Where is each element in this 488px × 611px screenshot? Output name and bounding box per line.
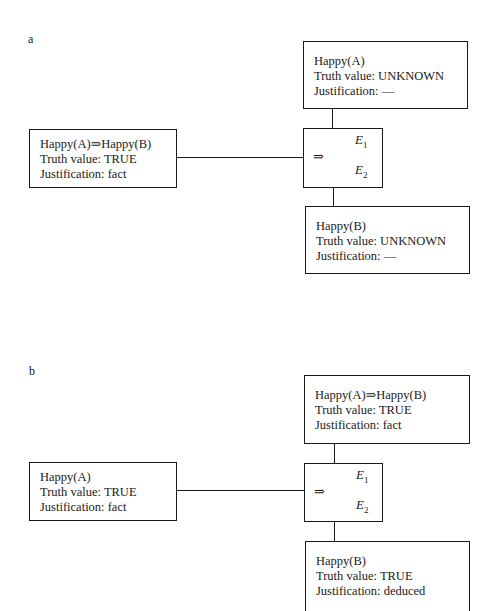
proposition: Happy(B)	[316, 554, 366, 570]
proposition: Happy(B)	[316, 219, 366, 235]
connector-top-to-node	[332, 108, 333, 128]
connector-node-to-bottom	[334, 521, 335, 542]
implication-node: E1 ⇒ E2	[304, 463, 383, 522]
proposition: Happy(A)	[40, 470, 91, 486]
panel-label-a: a	[28, 32, 33, 47]
justification: Justification: fact	[40, 500, 126, 516]
bottom-box-happy-b: Happy(B) Truth value: UNKNOWN Justificat…	[305, 206, 470, 274]
implies-arrow-icon: ⇒	[313, 149, 324, 165]
e2-label: E2	[355, 162, 367, 180]
truth-value: Truth value: UNKNOWN	[316, 234, 446, 250]
justification: Justification: —	[314, 84, 394, 100]
implies-arrow-icon: ⇒	[314, 484, 325, 500]
justification: Justification: fact	[40, 167, 126, 183]
bottom-box-happy-b: Happy(B) Truth value: TRUE Justification…	[305, 541, 470, 611]
proposition: Happy(A)⇒Happy(B)	[40, 137, 151, 153]
proposition: Happy(A)	[314, 54, 365, 70]
truth-value: Truth value: TRUE	[40, 152, 137, 168]
justification: Justification: deduced	[316, 584, 425, 600]
left-box-implication: Happy(A)⇒Happy(B) Truth value: TRUE Just…	[29, 129, 177, 188]
e1-label: E1	[356, 467, 368, 485]
connector-left-to-node	[177, 490, 304, 491]
truth-value: Truth value: UNKNOWN	[314, 69, 444, 85]
connector-top-to-node	[334, 443, 335, 463]
connector-node-to-bottom	[333, 187, 334, 207]
justification: Justification: —	[316, 249, 396, 265]
panel-label-b: b	[29, 364, 35, 379]
implication-node: E1 ⇒ E2	[303, 128, 383, 188]
truth-value: Truth value: TRUE	[315, 403, 412, 419]
truth-value: Truth value: TRUE	[40, 485, 137, 501]
e2-label: E2	[356, 497, 368, 515]
left-box-happy-a: Happy(A) Truth value: TRUE Justification…	[29, 462, 177, 521]
justification: Justification: fact	[315, 418, 401, 434]
e1-label: E1	[355, 132, 367, 150]
proposition: Happy(A)⇒Happy(B)	[315, 388, 426, 404]
top-box-implication: Happy(A)⇒Happy(B) Truth value: TRUE Just…	[304, 375, 470, 444]
connector-left-to-node	[176, 157, 303, 158]
top-box-happy-a: Happy(A) Truth value: UNKNOWN Justificat…	[303, 41, 468, 109]
truth-value: Truth value: TRUE	[316, 569, 413, 585]
